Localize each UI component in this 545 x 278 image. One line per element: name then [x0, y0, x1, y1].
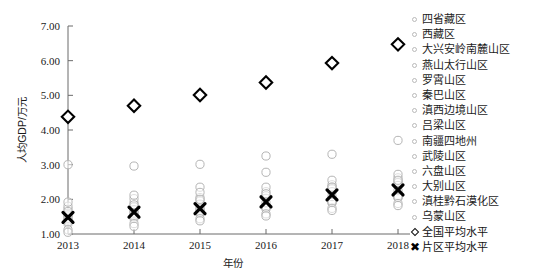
data-point-national-average — [392, 38, 404, 50]
legend-circle-icon — [408, 149, 422, 163]
legend-circle-icon — [408, 43, 422, 57]
circle-icon — [412, 32, 417, 37]
circle-icon — [412, 78, 417, 83]
legend-item[interactable]: 秦巴山区 — [408, 88, 545, 103]
legend-circle-icon — [408, 180, 422, 194]
legend: 四省藏区西藏区大兴安岭南麓山区燕山太行山区罗霄山区秦巴山区滇西边境山区吕梁山区南… — [408, 12, 545, 255]
legend-circle-icon — [408, 13, 422, 27]
legend-item[interactable]: 大别山区 — [408, 179, 545, 194]
y-tick-label: 6.00 — [41, 55, 61, 67]
scatter-chart: 1.002.003.004.005.006.007.00 20132014201… — [0, 0, 545, 278]
legend-item[interactable]: 吕梁山区 — [408, 118, 545, 133]
legend-item[interactable]: 燕山太行山区 — [408, 58, 545, 73]
data-point-circle — [328, 206, 336, 214]
legend-item[interactable]: 武陵山区 — [408, 149, 545, 164]
circle-icon — [412, 63, 417, 68]
legend-diamond-icon — [408, 225, 422, 239]
data-point-national-average — [326, 57, 338, 69]
x-tick-label: 2018 — [387, 239, 410, 251]
x-axis-title: 年份 — [223, 257, 244, 269]
circle-icon — [412, 108, 417, 113]
circle-icon — [412, 199, 417, 204]
data-point-circle — [130, 191, 138, 199]
data-point-circle — [196, 160, 204, 168]
data-points-group — [62, 38, 404, 236]
legend-circle-icon — [408, 73, 422, 87]
legend-item-label: 全国平均水平 — [422, 225, 488, 240]
legend-circle-icon — [408, 89, 422, 103]
x-tick-label: 2013 — [57, 239, 80, 251]
legend-circle-icon — [408, 104, 422, 118]
axes-group — [68, 26, 410, 234]
data-point-circle — [196, 195, 204, 203]
data-point-circle — [394, 176, 402, 184]
legend-circle-icon — [408, 119, 422, 133]
y-tick-label: 2.00 — [41, 193, 61, 205]
data-point-circle — [196, 217, 204, 225]
legend-item-label: 片区平均水平 — [422, 240, 488, 255]
diamond-icon — [410, 228, 418, 236]
data-point-national-average — [128, 100, 140, 112]
legend-item-label: 西藏区 — [422, 27, 455, 42]
data-point-national-average — [194, 89, 206, 101]
legend-circle-icon — [408, 134, 422, 148]
y-tick-label: 5.00 — [41, 89, 61, 101]
y-tick-label: 4.00 — [41, 124, 61, 136]
legend-item-label: 大兴安岭南麓山区 — [422, 42, 510, 57]
legend-item-label: 滇桂黔石漠化区 — [422, 194, 499, 209]
legend-item-label: 滇西边境山区 — [422, 103, 488, 118]
legend-item[interactable]: 西藏区 — [408, 27, 545, 42]
circle-icon — [412, 17, 417, 22]
y-tick-label: 3.00 — [41, 159, 61, 171]
circle-icon — [412, 184, 417, 189]
x-tick-group: 201320142015201620172018 — [57, 229, 410, 251]
legend-circle-icon — [408, 58, 422, 72]
legend-item-label: 武陵山区 — [422, 149, 466, 164]
circle-icon — [412, 123, 417, 128]
legend-item-label: 罗霄山区 — [422, 73, 466, 88]
x-tick-label: 2016 — [255, 239, 278, 251]
legend-item-label: 吕梁山区 — [422, 118, 466, 133]
legend-item[interactable]: 滇西边境山区 — [408, 103, 545, 118]
data-point-circle — [262, 212, 270, 220]
legend-item[interactable]: ✖片区平均水平 — [408, 240, 545, 255]
legend-item-label: 南疆四地州 — [422, 134, 477, 149]
circle-icon — [412, 154, 417, 159]
legend-item-label: 大别山区 — [422, 179, 466, 194]
circle-icon — [412, 93, 417, 98]
legend-item[interactable]: 六盘山区 — [408, 164, 545, 179]
legend-circle-icon — [408, 210, 422, 224]
data-point-national-average — [260, 76, 272, 88]
data-point-circle — [64, 198, 72, 206]
x-tick-label: 2017 — [321, 239, 344, 251]
legend-item-label: 乌蒙山区 — [422, 209, 466, 224]
y-tick-label: 7.00 — [41, 20, 61, 32]
data-point-circle — [394, 136, 402, 144]
legend-item[interactable]: 四省藏区 — [408, 12, 545, 27]
data-point-circle — [64, 161, 72, 169]
data-point-circle — [262, 168, 270, 176]
data-point-national-average — [62, 111, 74, 123]
circle-icon — [412, 169, 417, 174]
legend-item[interactable]: 罗霄山区 — [408, 73, 545, 88]
legend-item[interactable]: 大兴安岭南麓山区 — [408, 42, 545, 57]
data-point-circle — [130, 162, 138, 170]
circle-icon — [412, 139, 417, 144]
legend-item-label: 燕山太行山区 — [422, 58, 488, 73]
x-icon: ✖ — [409, 241, 421, 253]
data-point-circle — [394, 201, 402, 209]
legend-item-label: 秦巴山区 — [422, 88, 466, 103]
legend-circle-icon — [408, 164, 422, 178]
circle-icon — [412, 47, 417, 52]
data-point-circle — [328, 150, 336, 158]
legend-item[interactable]: 全国平均水平 — [408, 225, 545, 240]
data-point-circle — [262, 152, 270, 160]
legend-item[interactable]: 南疆四地州 — [408, 134, 545, 149]
legend-item[interactable]: 乌蒙山区 — [408, 209, 545, 224]
x-tick-label: 2014 — [123, 239, 146, 251]
legend-item[interactable]: 滇桂黔石漠化区 — [408, 194, 545, 209]
legend-item-label: 六盘山区 — [422, 164, 466, 179]
legend-x-icon: ✖ — [408, 240, 422, 254]
y-axis-title: 人均GDP/万元 — [16, 96, 28, 163]
legend-item-label: 四省藏区 — [422, 12, 466, 27]
